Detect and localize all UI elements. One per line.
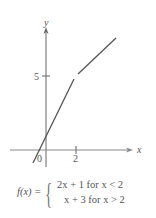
formula-case-2: x + 3 for x > 2 [64,194,125,205]
piecewise-formula: f(x) = { 2x + 1 for x < 2 x + 3 for x > … [17,178,156,212]
origin-label: 0 [37,153,42,164]
y-axis-label: y [43,17,49,28]
formula-lhs: f(x) = [17,186,41,197]
y-tick-label: 5 [34,71,39,82]
segment-x-plus-3 [78,38,116,74]
brace-icon: { [45,176,52,210]
x-axis-label: x [136,144,142,155]
formula-case-1: 2x + 1 for x < 2 [57,179,123,190]
x-tick-label: 2 [73,153,78,164]
